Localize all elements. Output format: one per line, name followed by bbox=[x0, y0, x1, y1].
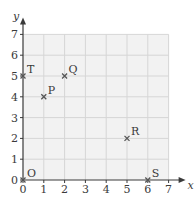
point-label: R bbox=[131, 125, 140, 138]
point-label: S bbox=[152, 167, 160, 180]
x-tick-label: 6 bbox=[144, 183, 151, 196]
x-tick-label: 1 bbox=[40, 183, 47, 196]
point-label: P bbox=[48, 84, 56, 97]
x-tick-label: 4 bbox=[103, 183, 110, 196]
x-axis-label: x bbox=[188, 179, 195, 192]
point-label: T bbox=[27, 63, 35, 76]
point-label: O bbox=[27, 167, 36, 180]
grid-background bbox=[23, 34, 169, 180]
y-tick-label: 7 bbox=[11, 28, 18, 41]
coordinate-grid-chart: 0123456701234567 OPQRST x y bbox=[0, 0, 195, 197]
x-tick-label: 2 bbox=[61, 183, 68, 196]
point-label: Q bbox=[69, 63, 78, 76]
y-tick-label: 6 bbox=[11, 49, 18, 62]
x-tick-label: 7 bbox=[165, 183, 172, 196]
x-axis-arrow-icon bbox=[179, 177, 186, 183]
y-axis-label: y bbox=[12, 10, 20, 23]
y-tick-label: 1 bbox=[11, 153, 18, 166]
y-axis-arrow-icon bbox=[20, 17, 26, 24]
y-tick-label: 2 bbox=[11, 132, 18, 145]
y-tick-label: 3 bbox=[11, 112, 18, 125]
x-tick-label: 3 bbox=[82, 183, 89, 196]
y-tick-label: 5 bbox=[11, 70, 18, 83]
y-tick-label: 4 bbox=[11, 91, 18, 104]
y-tick-label: 0 bbox=[11, 174, 18, 187]
x-tick-label: 5 bbox=[124, 183, 131, 196]
x-tick-label: 0 bbox=[20, 183, 27, 196]
